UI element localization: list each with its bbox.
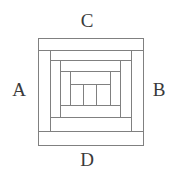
edge-label-top-c: C xyxy=(74,11,100,30)
edge-label-bottom-d: D xyxy=(74,150,100,169)
figure-root: A B C D xyxy=(0,0,174,177)
edge-label-right-b: B xyxy=(146,80,172,99)
edge-label-left-a: A xyxy=(6,80,32,99)
